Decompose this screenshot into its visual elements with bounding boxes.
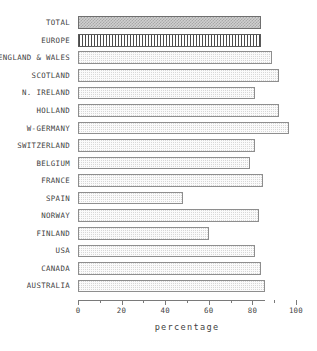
- x-tick-major: [252, 300, 253, 305]
- category-label: ENGLAND & WALES: [0, 53, 70, 62]
- bar-row: [78, 242, 296, 260]
- category-label-row: FINLAND: [0, 225, 74, 243]
- category-label: SCOTLAND: [32, 71, 70, 80]
- bar: [78, 157, 250, 170]
- bar-row: [78, 277, 296, 295]
- category-label-row: N. IRELAND: [0, 84, 74, 102]
- bar-row: [78, 49, 296, 67]
- category-label-row: TOTAL: [0, 14, 74, 32]
- category-label: N. IRELAND: [22, 88, 70, 97]
- x-tick-major: [209, 300, 210, 305]
- category-label: SPAIN: [46, 194, 70, 203]
- x-tick-minor: [187, 300, 188, 303]
- x-tick-label: 80: [248, 306, 258, 315]
- category-label-row: SCOTLAND: [0, 67, 74, 85]
- category-label-row: AUSTRALIA: [0, 277, 74, 295]
- category-label-row: BELGIUM: [0, 154, 74, 172]
- category-label: FRANCE: [41, 176, 70, 185]
- category-label: TOTAL: [46, 18, 70, 27]
- x-tick-major: [122, 300, 123, 305]
- category-label-row: EUROPE: [0, 32, 74, 50]
- category-label-row: USA: [0, 242, 74, 260]
- bar-row: [78, 172, 296, 190]
- category-label: HOLLAND: [36, 106, 70, 115]
- category-label-row: ENGLAND & WALES: [0, 49, 74, 67]
- x-tick-minor: [100, 300, 101, 303]
- x-tick-minor: [274, 300, 275, 303]
- bar: [78, 262, 261, 275]
- category-label: FINLAND: [36, 229, 70, 238]
- category-label: AUSTRALIA: [27, 281, 70, 290]
- bar-row: [78, 154, 296, 172]
- x-tick-minor: [143, 300, 144, 303]
- bar: [78, 227, 209, 240]
- x-tick-major: [165, 300, 166, 305]
- category-label-row: FRANCE: [0, 172, 74, 190]
- category-label-row: NORWAY: [0, 207, 74, 225]
- bar-row: [78, 137, 296, 155]
- bar-row: [78, 84, 296, 102]
- x-tick-major: [296, 300, 297, 305]
- x-tick-label: 100: [289, 306, 303, 315]
- x-axis-tick-labels: 020406080100: [78, 306, 296, 318]
- bar: [78, 87, 255, 100]
- bar: [78, 174, 263, 187]
- bar-row: [78, 14, 296, 32]
- category-label: EUROPE: [41, 36, 70, 45]
- category-label-row: CANADA: [0, 260, 74, 278]
- bar: [78, 122, 289, 135]
- bar: [78, 51, 272, 64]
- category-label: SWITZERLAND: [17, 141, 70, 150]
- x-tick-label: 20: [117, 306, 127, 315]
- category-label-row: W-GERMANY: [0, 119, 74, 137]
- category-label: NORWAY: [41, 211, 70, 220]
- category-label: BELGIUM: [36, 159, 70, 168]
- bar-row: [78, 260, 296, 278]
- bar: [78, 104, 279, 117]
- bar-row: [78, 225, 296, 243]
- category-label: W-GERMANY: [27, 124, 70, 133]
- bar: [78, 209, 259, 222]
- bar-row: [78, 67, 296, 85]
- x-tick-label: 0: [76, 306, 81, 315]
- bar: [78, 192, 183, 205]
- bar: [78, 280, 265, 293]
- x-tick-label: 40: [160, 306, 170, 315]
- bar-row: [78, 189, 296, 207]
- category-label-row: SPAIN: [0, 189, 74, 207]
- bar: [78, 69, 279, 82]
- category-label-row: HOLLAND: [0, 102, 74, 120]
- bar-row: [78, 32, 296, 50]
- bar-row: [78, 102, 296, 120]
- category-label: USA: [56, 246, 70, 255]
- bar-row: [78, 207, 296, 225]
- bar: [78, 34, 261, 47]
- bar-row: [78, 119, 296, 137]
- bar: [78, 16, 261, 29]
- x-tick-major: [78, 300, 79, 305]
- x-tick-label: 60: [204, 306, 214, 315]
- bar-chart: TOTALEUROPEENGLAND & WALESSCOTLANDN. IRE…: [0, 0, 317, 351]
- bar: [78, 245, 255, 258]
- x-tick-minor: [231, 300, 232, 303]
- bar: [78, 139, 255, 152]
- x-axis-title: percentage: [78, 322, 296, 332]
- plot-area: [78, 14, 296, 300]
- category-label-row: SWITZERLAND: [0, 137, 74, 155]
- category-label: CANADA: [41, 264, 70, 273]
- category-axis-labels: TOTALEUROPEENGLAND & WALESSCOTLANDN. IRE…: [0, 14, 74, 300]
